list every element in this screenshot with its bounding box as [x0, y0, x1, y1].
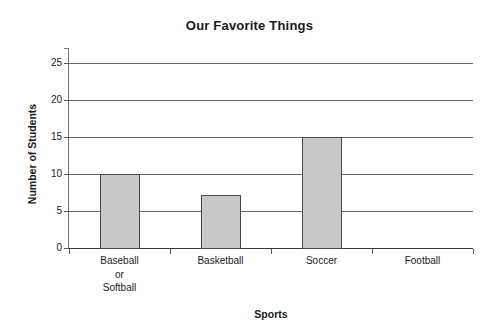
x-axis-title: Sports	[69, 308, 473, 320]
bar-soccer	[302, 137, 342, 249]
y-tick-label-25: 25	[22, 58, 62, 68]
bar-baseball-or-softball	[100, 174, 140, 249]
y-tick-label-20: 20	[22, 95, 62, 105]
x-category-label-baseball-or-softball: BaseballorSoftball	[69, 254, 170, 295]
y-tick-label-15: 15	[22, 132, 62, 142]
x-axis-category-labels: BaseballorSoftballBasketballSoccerFootba…	[69, 254, 473, 308]
x-category-label-line: Football	[372, 254, 473, 268]
gridline-15	[69, 137, 473, 138]
x-category-label-line: or	[69, 268, 170, 282]
x-category-label-football: Football	[372, 254, 473, 268]
x-category-label-line: Soccer	[271, 254, 372, 268]
y-tick-label-5: 5	[22, 206, 62, 216]
plot-area	[69, 48, 473, 248]
x-category-label-soccer: Soccer	[271, 254, 372, 268]
x-tick-mark-4	[473, 249, 474, 254]
y-axis-tick-labels: 0510152025	[18, 0, 62, 334]
x-category-label-line: Baseball	[69, 254, 170, 268]
gridline-25	[69, 63, 473, 64]
x-category-label-line: Softball	[69, 281, 170, 295]
y-tick-label-0: 0	[22, 243, 62, 253]
gridline-20	[69, 100, 473, 101]
bar-chart: Our Favorite Things Number of Students 0…	[0, 0, 499, 334]
bar-basketball	[201, 195, 241, 249]
x-category-label-basketball: Basketball	[170, 254, 271, 268]
y-tick-label-10: 10	[22, 169, 62, 179]
x-category-label-line: Basketball	[170, 254, 271, 268]
chart-title: Our Favorite Things	[0, 18, 499, 33]
